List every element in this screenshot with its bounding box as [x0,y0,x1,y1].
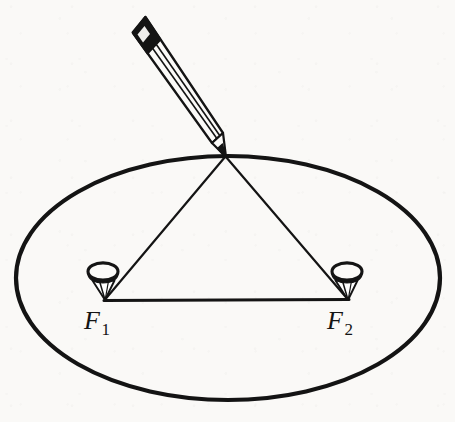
focus-one-label-subscript: 1 [101,320,110,339]
drawn-ellipse-ink-accent [16,278,440,400]
focus-one-label-base: F [84,306,100,335]
thumbtack-focus-one [88,263,118,300]
focus-two-label-subscript: 2 [344,320,353,339]
ellipse-construction-figure: F1 F2 [0,0,455,422]
focus-one-label: F1 [84,306,109,336]
string-group [104,157,349,301]
thumbtack-two-head-top [332,263,362,280]
baseline-between-foci [104,300,349,301]
thumbtack-one-head-top [88,263,118,280]
string-segment-to-focus-two [226,157,348,299]
focus-two-label: F2 [327,306,352,336]
drawn-ellipse [16,156,440,400]
pencil-group [133,17,227,158]
string-segment-to-focus-one [106,157,226,299]
figure-canvas [0,0,455,422]
focus-two-label-base: F [327,306,343,335]
drawn-ellipse-group [16,156,440,400]
thumbtack-focus-two [332,263,362,300]
